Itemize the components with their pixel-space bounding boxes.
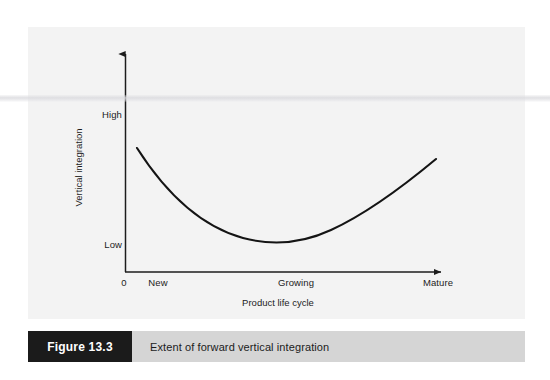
y-tick-label-low: Low xyxy=(90,239,122,250)
chart-area: High Low 0 New Growing Mature Product li… xyxy=(28,27,525,319)
y-tick-label-high: High xyxy=(90,109,122,120)
y-axis-title: Vertical integration xyxy=(73,108,84,228)
x-tick-label-zero: 0 xyxy=(117,277,131,288)
x-tick-label-mature: Mature xyxy=(413,277,463,288)
chart-graphic xyxy=(28,27,525,319)
figure-page: High Low 0 New Growing Mature Product li… xyxy=(0,0,550,380)
x-tick-label-growing: Growing xyxy=(266,277,326,288)
figure-caption-bar: Figure 13.3 Extent of forward vertical i… xyxy=(28,331,525,362)
figure-number-block: Figure 13.3 xyxy=(28,331,132,362)
x-axis-title: Product life cycle xyxy=(188,297,368,308)
data-curve-u-shape xyxy=(137,148,436,242)
x-tick-label-new: New xyxy=(138,277,178,288)
figure-caption-text: Extent of forward vertical integration xyxy=(132,331,525,362)
figure-number-label: Figure 13.3 xyxy=(47,340,113,354)
